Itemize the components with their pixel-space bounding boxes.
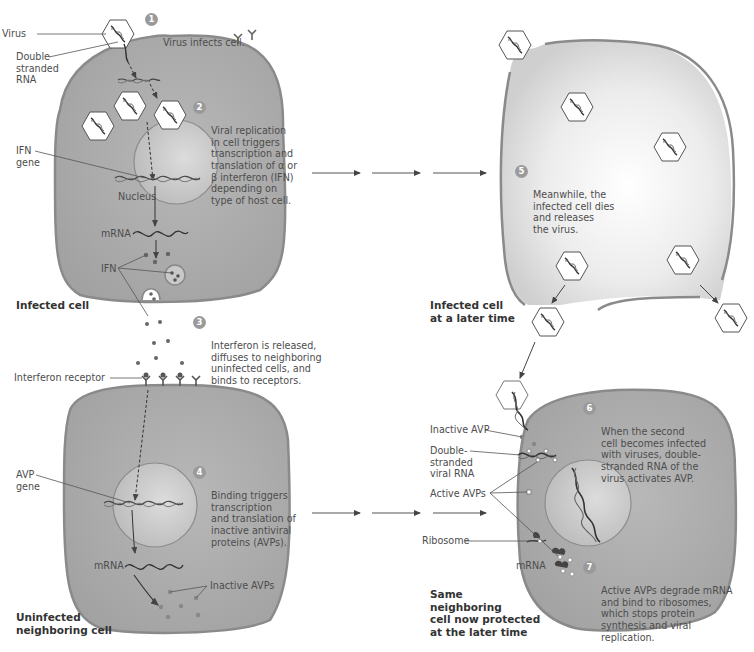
step-4: 4 Binding triggers transcription and tra… xyxy=(211,467,296,548)
diagram-artwork xyxy=(0,0,754,652)
step-1-badge: 1 xyxy=(145,13,158,26)
label-double-stranded-rna: Double stranded RNA xyxy=(16,51,59,86)
label-inactive-avps: Inactive AVPs xyxy=(210,580,274,592)
label-mrna-infected: mRNA xyxy=(101,228,131,240)
label-inactive-avp: Inactive AVP xyxy=(430,424,489,436)
step-5: 5 Meanwhile, the infected cell dies and … xyxy=(533,166,614,236)
step-7-badge: 7 xyxy=(583,561,596,574)
step-5-badge: 5 xyxy=(515,165,528,178)
label-ribosome: Ribosome xyxy=(422,535,469,547)
panel-title-dead-cell: Infected cell at a later time xyxy=(430,299,515,324)
step-7-text: Active AVPs degrade mRNA and bind to rib… xyxy=(601,585,733,642)
label-double-stranded-viral-rna: Double- stranded viral RNA xyxy=(430,445,474,480)
panel-title-protected-cell: Same neighboring cell now protected at t… xyxy=(430,588,540,638)
step-3-text: Interferon is released, diffuses to neig… xyxy=(211,340,322,386)
step-7: 7 Active AVPs degrade mRNA and bind to r… xyxy=(601,562,733,643)
step-6-text: When the second cell becomes infected wi… xyxy=(601,426,706,483)
step-3: 3 Interferon is released, diffuses to ne… xyxy=(211,317,322,387)
step-2-text: Viral replication in cell triggers trans… xyxy=(211,125,297,206)
step-6-badge: 6 xyxy=(583,402,596,415)
step-1-text: Virus infects cell. xyxy=(163,37,245,48)
label-interferon-receptor: Interferon receptor xyxy=(14,372,105,384)
step-4-text: Binding triggers transcription and trans… xyxy=(211,490,296,547)
step-2-badge: 2 xyxy=(193,101,206,114)
label-virus: Virus xyxy=(2,28,26,40)
step-2: 2 Viral replication in cell triggers tra… xyxy=(211,102,297,206)
step-4-badge: 4 xyxy=(193,466,206,479)
panel-title-uninfected-cell: Uninfected neighboring cell xyxy=(16,611,112,636)
label-avp-gene: AVP gene xyxy=(16,469,40,492)
step-3-badge: 3 xyxy=(193,316,206,329)
step-6: 6 When the second cell becomes infected … xyxy=(601,403,706,484)
label-ifn: IFN xyxy=(101,263,117,275)
label-mrna-uninfected: mRNA xyxy=(94,560,124,572)
label-nucleus: Nucleus xyxy=(118,191,156,203)
step-1: 1 Virus infects cell. xyxy=(163,14,245,49)
panel-title-infected-cell: Infected cell xyxy=(16,299,89,312)
step-5-text: Meanwhile, the infected cell dies and re… xyxy=(533,189,614,235)
label-ifn-gene: IFN gene xyxy=(16,145,40,168)
label-active-avps: Active AVPs xyxy=(430,488,486,500)
released-interferon xyxy=(136,320,184,365)
label-mrna-protected: mRNA xyxy=(516,560,546,572)
